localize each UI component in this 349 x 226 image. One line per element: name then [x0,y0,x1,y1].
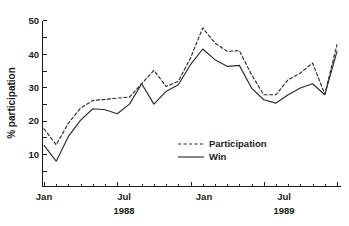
x-year-label-1988: 1988 [113,205,134,216]
x-year-label-1989: 1989 [273,205,294,216]
x-year-labels: 1988 1989 [113,205,294,216]
chart-figure: % participation 50 40 30 20 10 [0,0,349,226]
y-tick-labels: 50 40 30 20 10 [28,15,39,160]
y-tick-label-20: 20 [28,115,39,126]
y-axis-ticks [43,21,47,172]
x-tick-label-jul-1988: Jul [117,191,131,202]
legend-label-participation: Participation [209,138,267,149]
legend-label-win: Win [209,151,227,162]
y-tick-label-50: 50 [28,15,39,26]
x-axis-ticks [45,182,338,187]
series-group [44,28,337,161]
line-chart: % participation 50 40 30 20 10 [0,0,349,226]
series-line-participation [44,28,337,145]
y-tick-label-30: 30 [28,82,39,93]
x-tick-label-jul-1989: Jul [277,191,291,202]
y-tick-label-40: 40 [28,49,39,60]
x-tick-label-jan-1988: Jan [36,191,53,202]
y-axis-title: % participation [6,67,17,139]
x-tick-labels: Jan Jul Jan Jul [36,191,291,202]
chart-legend: Participation Win [178,138,267,162]
x-tick-label-jan-1989: Jan [196,191,213,202]
y-tick-label-10: 10 [28,149,39,160]
